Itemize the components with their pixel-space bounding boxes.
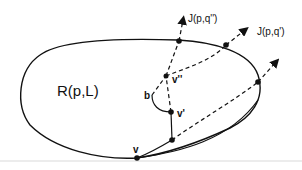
- vertex-top-right: [223, 42, 229, 48]
- vertex-v-prime: [168, 109, 174, 115]
- region-label: R(p,L): [57, 83, 99, 98]
- ray-j-q-double-prime: [179, 20, 183, 41]
- ray-label-j-q-prime: J(p,q'): [257, 27, 284, 37]
- vertex-lower: [169, 137, 175, 143]
- diagram-canvas: R(p,L) J(p,q'') J(p,q') v v' v'' b: [0, 0, 302, 170]
- vertex-right: [255, 79, 261, 85]
- vertex-label-v-prime: v': [177, 109, 185, 119]
- vertex-label-b: b: [144, 91, 150, 101]
- solid-curve-b-to-vprime: [152, 95, 171, 112]
- dashed-vdoubleprime-to-top: [166, 41, 179, 76]
- vertex-label-v-double-prime: v'': [172, 75, 182, 85]
- ray-j-q-prime: [226, 30, 245, 45]
- ray-right: [258, 62, 276, 82]
- vertex-v-double-prime: [164, 74, 169, 79]
- dashed-vprime-to-vdoubleprime: [166, 76, 171, 112]
- vertex-label-v: v: [133, 145, 139, 155]
- dashed-b-to-vdoubleprime: [152, 76, 166, 95]
- ray-label-j-q-double-prime: J(p,q''): [188, 14, 217, 24]
- solid-edge-vertex-to-vprime: [171, 112, 172, 140]
- vertex-top: [176, 38, 182, 44]
- dashed-vdoubleprime-to-rightpoint: [166, 45, 226, 76]
- vertex-v: [134, 155, 140, 161]
